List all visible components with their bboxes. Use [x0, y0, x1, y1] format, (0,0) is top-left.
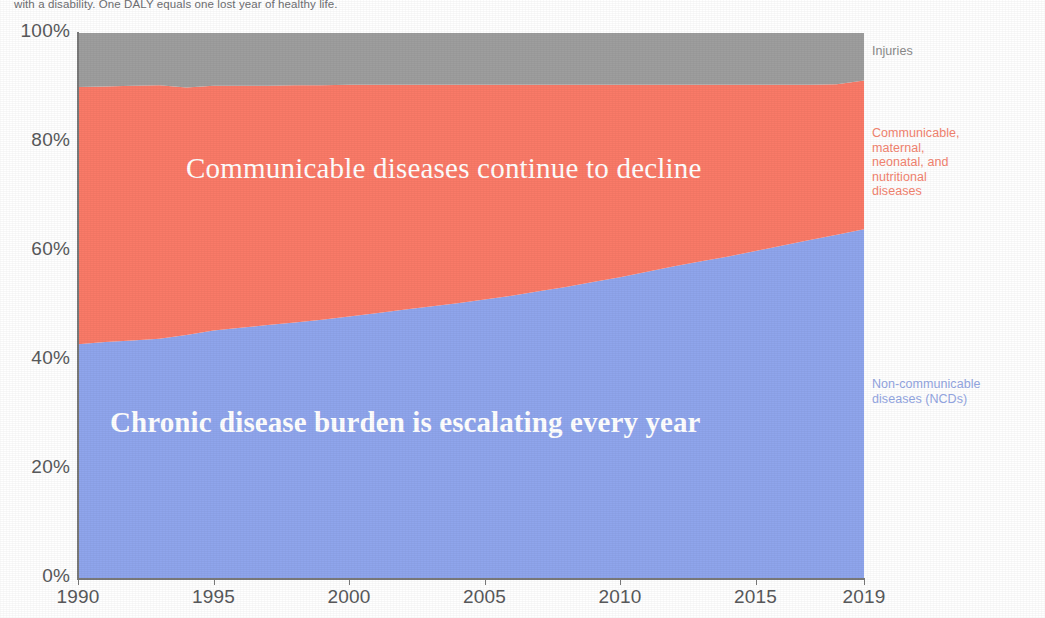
x-axis-tick-label: 2015	[734, 586, 777, 608]
y-axis-tick-label: 80%	[8, 129, 70, 151]
annotation-communicable-decline: Communicable diseases continue to declin…	[186, 152, 702, 185]
x-axis-line	[77, 578, 865, 580]
y-axis-tick-label: 40%	[8, 347, 70, 369]
area-band	[78, 33, 864, 88]
y-axis-tick-label: 0%	[8, 565, 70, 587]
y-axis-tick-label: 100%	[8, 20, 70, 42]
y-axis-tick-label: 60%	[8, 238, 70, 260]
x-axis-tick-label: 2005	[463, 586, 506, 608]
x-axis-tick-mark	[756, 579, 757, 585]
chart-page: with a disability. One DALY equals one l…	[0, 0, 1045, 618]
x-axis-tick-mark	[214, 579, 215, 585]
x-axis-tick-mark	[864, 579, 865, 585]
x-axis-tick-mark	[620, 579, 621, 585]
series-label-non-communicable: Non-communicable diseases (NCDs)	[872, 377, 980, 406]
y-axis-line	[77, 32, 79, 579]
plot-area	[78, 33, 864, 578]
y-axis-tick-label: 20%	[8, 456, 70, 478]
x-axis-tick-label: 2019	[842, 586, 885, 608]
x-axis-tick-label: 2000	[327, 586, 370, 608]
series-label-communicable: Communicable, maternal, neonatal, and nu…	[872, 126, 960, 199]
stacked-area-svg	[78, 33, 864, 578]
x-axis-tick-mark	[78, 579, 79, 585]
x-axis-tick-mark	[349, 579, 350, 585]
annotation-ncd-escalating: Chronic disease burden is escalating eve…	[110, 406, 701, 439]
x-axis-tick-label: 2010	[599, 586, 642, 608]
series-label-injuries: Injuries	[872, 44, 913, 59]
y-axis-ticks: 0%20%40%60%80%100%	[0, 0, 70, 618]
x-axis-tick-label: 1995	[192, 586, 235, 608]
x-axis-tick-mark	[485, 579, 486, 585]
x-axis-tick-label: 1990	[56, 586, 99, 608]
